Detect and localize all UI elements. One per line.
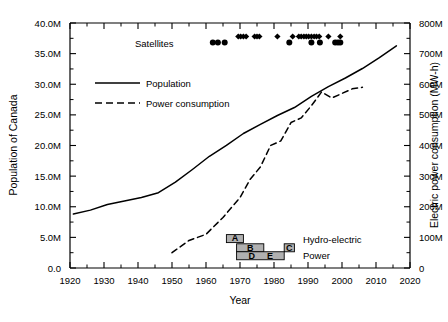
y-right-tick-label: 700M xyxy=(419,48,443,59)
satellite-marker-circle xyxy=(308,40,314,46)
x-tick-label: 2010 xyxy=(365,275,386,286)
satellite-marker-circle xyxy=(317,40,323,46)
x-axis-title: Year xyxy=(229,294,251,306)
x-tick-label: 1990 xyxy=(297,275,318,286)
y-left-tick-label: 30.0M xyxy=(35,79,61,90)
hydro-bar-label-e: E xyxy=(267,251,273,261)
legend-label-population: Population xyxy=(146,78,191,89)
y-left-tick-label: 10.0M xyxy=(35,201,61,212)
x-tick-label: 1940 xyxy=(127,275,148,286)
y-right-tick-label: 100M xyxy=(419,232,443,243)
x-tick-label: 1960 xyxy=(195,275,216,286)
hydro-bar-d xyxy=(237,252,285,260)
x-tick-label: 1980 xyxy=(263,275,284,286)
satellite-marker-circle xyxy=(215,40,221,46)
y-right-tick-label: 800M xyxy=(419,18,443,29)
satellite-marker-circle xyxy=(222,40,228,46)
satellite-marker-circle xyxy=(337,40,343,46)
y-right-tick-label: 0 xyxy=(419,263,424,274)
chart-figure: 1920193019401950196019701980199020002010… xyxy=(0,0,448,322)
hydro-power-annotation-line2: Power xyxy=(303,250,330,261)
y-axis-right-title: Electric power consumption (MW-h) xyxy=(428,62,440,228)
y-axis-left-title: Population of Canada xyxy=(7,94,19,195)
satellite-marker-circle xyxy=(286,40,292,46)
hydro-power-annotation-line1: Hydro-electric xyxy=(303,234,362,245)
chart-background xyxy=(0,0,448,322)
y-left-tick-label: 35.0M xyxy=(35,48,61,59)
hydro-bar-label-d: D xyxy=(249,251,256,261)
x-tick-label: 1970 xyxy=(229,275,250,286)
y-left-tick-label: 20.0M xyxy=(35,140,61,151)
x-tick-label: 2020 xyxy=(399,275,420,286)
y-left-tick-label: 40.0M xyxy=(35,18,61,29)
legend-label-power-consumption: Power consumption xyxy=(146,98,229,109)
hydro-bar-label-a: A xyxy=(232,233,239,243)
x-tick-label: 1920 xyxy=(59,275,80,286)
y-left-tick-label: 25.0M xyxy=(35,109,61,120)
population-power-chart: 1920193019401950196019701980199020002010… xyxy=(0,0,448,322)
x-tick-label: 1950 xyxy=(161,275,182,286)
satellites-annotation: Satellites xyxy=(135,38,174,49)
y-left-tick-label: 15.0M xyxy=(35,171,61,182)
y-left-tick-label: 0.0 xyxy=(48,263,61,274)
y-left-tick-label: 5.0M xyxy=(40,232,61,243)
x-tick-label: 2000 xyxy=(331,275,352,286)
hydro-bar-label-c: C xyxy=(286,243,293,253)
x-tick-label: 1930 xyxy=(93,275,114,286)
